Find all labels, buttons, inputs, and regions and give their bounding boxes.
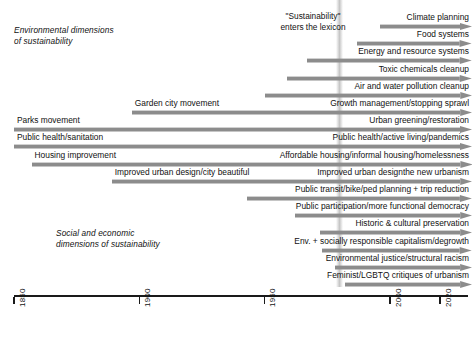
timeline-row: Urban greening/restorationParks movement xyxy=(0,115,474,133)
axis-tick-label-2020: 2020 xyxy=(444,288,453,307)
axis-tick-label-1850: 1850 xyxy=(18,288,27,307)
axis-tick-label-1900: 1900 xyxy=(143,288,152,307)
timeline-row: Public transit/bike/ped planning + trip … xyxy=(0,184,474,202)
row-label-left-growth-management: Garden city movement xyxy=(135,98,219,108)
row-label-right-feminist-lgbtq: Feminist/LGBTQ critiques of urbanism xyxy=(327,270,469,280)
row-label-right-responsible-capitalism: Env. + socially responsible capitalism/d… xyxy=(294,236,469,246)
row-label-right-toxic-chemicals: Toxic chemicals cleanup xyxy=(379,64,469,74)
row-label-left-public-health: Public health/sanitation xyxy=(17,132,103,142)
timeline-row: Food systems xyxy=(0,29,474,47)
row-label-right-historic-preservation: Historic & cultural preservation xyxy=(355,218,469,228)
timeline-row: Historic & cultural preservation xyxy=(0,218,474,236)
row-label-left-affordable-housing: Housing improvement xyxy=(35,150,116,160)
timeline-row: Env. + socially responsible capitalism/d… xyxy=(0,236,474,254)
row-label-right-public-health: Public health/active living/pandemics xyxy=(333,132,469,142)
timeline-row: Affordable housing/informal housing/home… xyxy=(0,150,474,168)
axis-tick-1850 xyxy=(13,297,15,304)
row-label-right-urban-design: Improved urban designthe new urbanism xyxy=(317,167,469,177)
timeline-row: Air and water pollution cleanup xyxy=(0,81,474,99)
row-label-right-affordable-housing: Affordable housing/informal housing/home… xyxy=(280,150,469,160)
row-label-right-public-participation: Public participation/more functional dem… xyxy=(296,201,469,211)
row-label-right-public-transit: Public transit/bike/ped planning + trip … xyxy=(295,184,469,194)
axis-tick-label-1950: 1950 xyxy=(268,288,277,307)
row-label-right-air-water-pollution: Air and water pollution cleanup xyxy=(354,81,469,91)
timeline-row: Feminist/LGBTQ critiques of urbanism xyxy=(0,270,474,288)
axis-tick-2000 xyxy=(389,297,391,304)
row-label-right-food-systems: Food systems xyxy=(417,29,469,39)
row-label-right-energy-resources: Energy and resource systems xyxy=(358,46,469,56)
timeline-row: Toxic chemicals cleanup xyxy=(0,64,474,82)
timeline-row: Public health/active living/pandemicsPub… xyxy=(0,132,474,150)
row-label-left-urban-design: Improved urban design/city beautiful xyxy=(115,167,250,177)
axis-tick-2020 xyxy=(439,297,441,304)
axis-tick-1900 xyxy=(139,297,141,304)
timeline-row: Climate planning xyxy=(0,12,474,30)
axis-tick-1950 xyxy=(264,297,266,304)
row-label-right-environmental-justice: Environmental justice/structural racism xyxy=(326,253,469,263)
timeline-row: Growth management/stopping sprawlGarden … xyxy=(0,98,474,116)
timeline-row: Energy and resource systems xyxy=(0,46,474,64)
timeline-arrow-feminist-lgbtq xyxy=(345,281,472,288)
row-label-right-climate-planning: Climate planning xyxy=(407,12,469,22)
arrow-glyph-icon xyxy=(345,281,472,288)
timeline-row: Improved urban designthe new urbanismImp… xyxy=(0,167,474,185)
timeline-figure: Environmental dimensions of sustainabili… xyxy=(0,0,474,340)
timeline-row: Environmental justice/structural racism xyxy=(0,253,474,271)
axis-tick-label-2000: 2000 xyxy=(394,288,403,307)
timeline-row: Public participation/more functional dem… xyxy=(0,201,474,219)
row-label-right-growth-management: Growth management/stopping sprawl xyxy=(330,98,469,108)
row-label-right-urban-greening: Urban greening/restoration xyxy=(369,115,469,125)
row-label-left-urban-greening: Parks movement xyxy=(17,115,80,125)
